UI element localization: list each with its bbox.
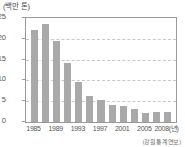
bar — [153, 112, 160, 122]
x-tick-label: 1985 — [26, 124, 40, 133]
bar-slot — [95, 18, 106, 122]
bar — [97, 100, 104, 122]
bar-slot — [62, 18, 73, 122]
bar — [86, 96, 93, 122]
y-tick-mark — [22, 17, 25, 18]
bar-chart: (백만 톤) 0510152025 1985198919931997200120… — [0, 0, 185, 147]
bar — [164, 112, 171, 122]
bar-slot — [51, 18, 62, 122]
bar-slot — [162, 18, 173, 122]
x-tick-label: 2005 — [137, 124, 151, 133]
x-tick-label: 2008(년) — [154, 124, 178, 133]
bars-layer — [26, 18, 176, 122]
y-tick-label: 25 — [0, 13, 6, 21]
bar-slot — [151, 18, 162, 122]
bar-slot — [40, 18, 51, 122]
y-tick-mark — [22, 100, 25, 101]
bar — [109, 105, 116, 122]
y-tick-label: 20 — [0, 34, 6, 42]
bar — [31, 30, 38, 122]
bar — [131, 109, 138, 122]
bar-slot — [118, 18, 129, 122]
y-tick-label: 15 — [0, 55, 6, 63]
x-tick-label: 2001 — [115, 124, 129, 133]
x-tick-label: 1993 — [71, 124, 85, 133]
y-tick-mark — [22, 121, 25, 122]
y-tick-label: 0 — [0, 117, 6, 125]
y-tick-mark — [22, 38, 25, 39]
bar-slot — [84, 18, 95, 122]
bar — [42, 24, 49, 122]
x-tick-label: 1997 — [93, 124, 107, 133]
plot-area — [25, 17, 177, 123]
y-tick-mark — [22, 59, 25, 60]
y-axis-unit-label: (백만 톤) — [3, 2, 30, 11]
bar-slot — [107, 18, 118, 122]
y-tick-mark — [22, 79, 25, 80]
y-tick-label: 5 — [0, 96, 6, 104]
bar — [64, 63, 71, 122]
bar-slot — [29, 18, 40, 122]
y-tick-label: 10 — [0, 75, 6, 83]
bar — [120, 106, 127, 122]
bar-slot — [140, 18, 151, 122]
bar — [142, 113, 149, 122]
x-axis: 1985198919931997200120052008(년) — [25, 124, 177, 135]
bar-slot — [73, 18, 84, 122]
source-note: (강원통계연보) — [143, 138, 181, 146]
bar — [53, 41, 60, 122]
bar-slot — [129, 18, 140, 122]
bar — [75, 82, 82, 122]
x-tick-label: 1989 — [49, 124, 63, 133]
